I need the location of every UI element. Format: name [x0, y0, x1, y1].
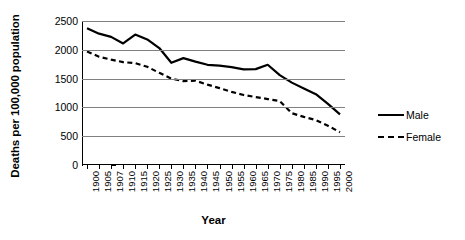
- y-tick-label: 1500: [38, 74, 78, 84]
- plot-area: [82, 21, 345, 165]
- x-tick-label: 1940: [199, 171, 208, 205]
- series-layer: [82, 21, 345, 165]
- x-tick-mark: [304, 165, 305, 169]
- x-tick-label: 1905: [103, 171, 112, 205]
- y-tick-label: 1000: [38, 102, 78, 112]
- gridline: [82, 107, 345, 108]
- x-tick-mark: [159, 165, 160, 169]
- x-tick-mark: [232, 165, 233, 169]
- x-tick-label: 1990: [320, 171, 329, 205]
- legend-item-male[interactable]: Male: [378, 104, 464, 126]
- line-chart: Deaths per 100,000 population 0500100015…: [0, 0, 465, 240]
- legend-line-sample: [378, 114, 404, 116]
- gridline: [82, 136, 345, 137]
- y-axis-tick-labels: 05001000150020002500: [34, 0, 78, 240]
- x-tick-label: 1995: [332, 171, 341, 205]
- chart-legend: MaleFemale: [378, 104, 464, 148]
- gridline: [82, 50, 345, 51]
- x-tick-label: 1925: [163, 171, 172, 205]
- legend-swatch-male: [378, 110, 404, 120]
- x-tick-mark: [316, 165, 317, 169]
- x-tick-mark: [292, 165, 293, 169]
- x-tick-label: 1907: [115, 171, 124, 205]
- x-tick-mark: [123, 165, 124, 169]
- x-tick-label: 1935: [187, 171, 196, 205]
- x-tick-label: 1930: [175, 171, 184, 205]
- x-tick-mark: [268, 165, 269, 169]
- legend-swatch-female: [378, 132, 404, 142]
- y-tick-label: 500: [38, 131, 78, 141]
- x-tick-mark: [147, 165, 148, 169]
- x-tick-label: 1915: [139, 171, 148, 205]
- x-tick-mark: [256, 165, 257, 169]
- y-tick-label: 0: [38, 160, 78, 170]
- x-tick-label: 1960: [248, 171, 257, 205]
- x-tick-label: 1985: [308, 171, 317, 205]
- x-tick-label: 1900: [91, 171, 100, 205]
- x-tick-mark: [87, 165, 88, 169]
- gridline: [82, 79, 345, 80]
- x-tick-mark: [207, 165, 208, 169]
- x-tick-mark: [183, 165, 184, 169]
- x-tick-label: 2000: [344, 171, 353, 205]
- x-tick-mark: [195, 165, 196, 169]
- x-axis-title: Year: [82, 214, 345, 226]
- x-tick-mark: [111, 165, 112, 169]
- x-tick-label: 1920: [151, 171, 160, 205]
- legend-line-sample: [378, 136, 404, 138]
- x-tick-mark: [171, 165, 172, 169]
- y-tick-label: 2000: [38, 45, 78, 55]
- x-tick-label: 1965: [260, 171, 269, 205]
- x-tick-label: 1955: [236, 171, 245, 205]
- x-tick-mark: [135, 165, 136, 169]
- x-tick-mark: [220, 165, 221, 169]
- series-line-male: [87, 28, 340, 114]
- x-tick-label: 1950: [224, 171, 233, 205]
- x-tick-mark: [340, 165, 341, 169]
- x-tick-label: 1980: [296, 171, 305, 205]
- x-tick-mark: [280, 165, 281, 169]
- series-line-female: [87, 52, 340, 133]
- x-tick-mark: [328, 165, 329, 169]
- x-tick-mark: [99, 165, 100, 169]
- legend-item-female[interactable]: Female: [378, 126, 464, 148]
- x-tick-label: 1970: [272, 171, 281, 205]
- legend-label: Female: [406, 131, 441, 143]
- x-tick-label: 1910: [127, 171, 136, 205]
- x-tick-label: 1975: [284, 171, 293, 205]
- x-tick-mark: [244, 165, 245, 169]
- legend-label: Male: [406, 109, 429, 121]
- y-axis-title: Deaths per 100,000 population: [4, 0, 26, 196]
- x-tick-label: 1945: [211, 171, 220, 205]
- y-tick-label: 2500: [38, 16, 78, 26]
